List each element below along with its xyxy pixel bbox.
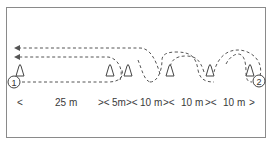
arrow-head-icon [14,54,20,60]
cone-icon [166,65,174,77]
return-path-inner [18,57,121,80]
distance-separator: >< [126,97,138,108]
finish-marker: 2 [253,75,265,87]
distance-label: 5m [112,97,126,108]
course-drawing: 1 2 [0,0,274,150]
distance-label: 10 m [140,97,162,108]
svg-text:2: 2 [256,77,261,87]
cone-icon [16,65,24,77]
svg-text:1: 1 [11,78,16,88]
cone-icon [206,65,214,77]
cone-icon [106,65,114,77]
cone-icon [124,65,132,77]
distance-separator: >< [205,97,217,108]
distance-label: 25 m [55,97,77,108]
distance-label: < [17,97,23,108]
weave-path [150,52,252,82]
distance-separator: >< [98,97,110,108]
start-marker: 1 [8,76,20,88]
distance-label: > [249,97,255,108]
distance-label: 10 m [223,97,245,108]
cone-icon [246,65,254,77]
arrow-head-icon [14,45,20,51]
distance-separator: >< [163,97,175,108]
return-path-outer [18,48,261,76]
distance-label: 10 m [181,97,203,108]
